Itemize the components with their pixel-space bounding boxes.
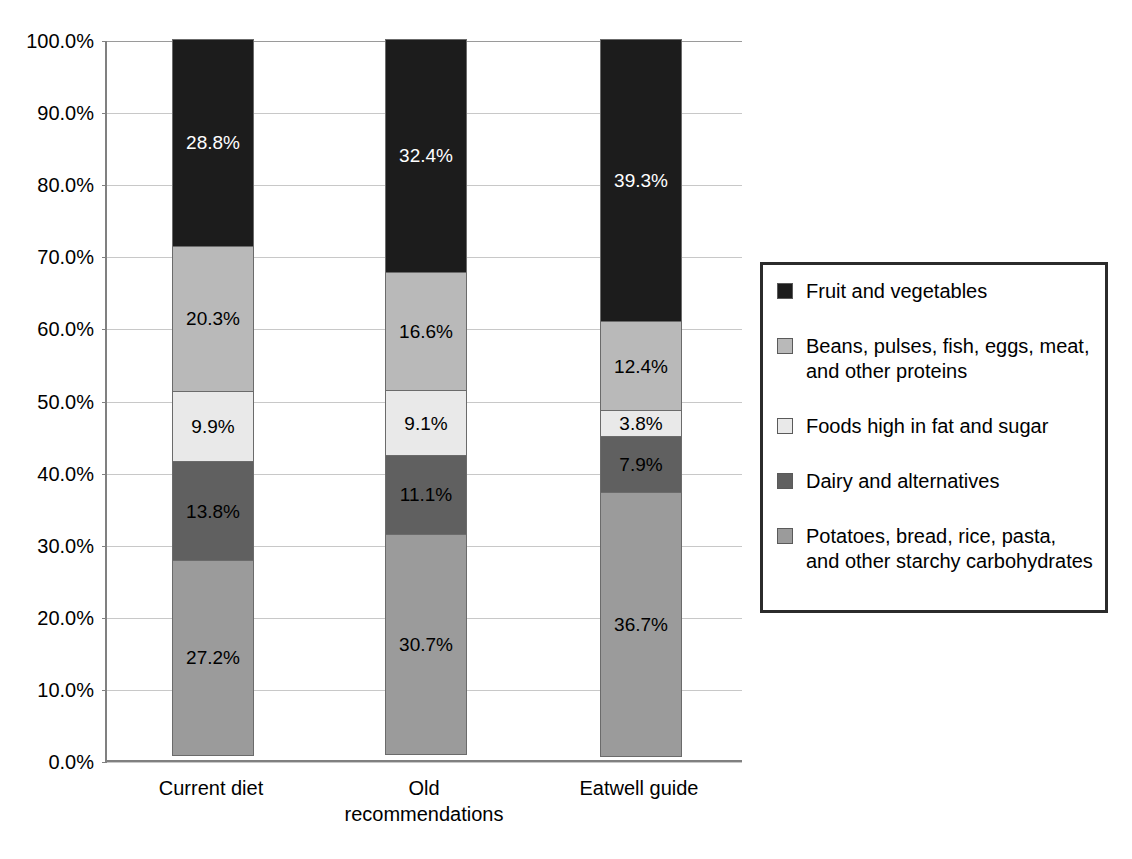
y-axis-tick [102,113,107,114]
bar-segment-value-label: 3.8% [619,414,662,433]
x-axis-category-label: Current diet [101,775,321,801]
legend-item-label: Foods high in fat and sugar [806,414,1048,439]
bar-segment[interactable]: 20.3% [172,246,254,392]
bar-segment[interactable]: 30.7% [385,534,467,755]
bar-segment-value-label: 12.4% [614,357,668,376]
legend-item[interactable]: Fruit and vegetables [777,279,1093,304]
y-axis-tick [102,329,107,330]
bar-old-recommendations[interactable]: 32.4%16.6%9.1%11.1%30.7% [385,39,467,760]
bar-segment-value-label: 39.3% [614,171,668,190]
y-axis-tick-label: 10.0% [4,680,94,700]
plot-area: 28.8%20.3%9.9%13.8%27.2%32.4%16.6%9.1%11… [105,41,742,762]
legend: Fruit and vegetablesBeans, pulses, fish,… [760,262,1108,613]
y-axis-tick [102,185,107,186]
bar-segment-value-label: 27.2% [186,648,240,667]
legend-item-label: Potatoes, bread, rice, pasta, and other … [806,524,1093,574]
legend-color-swatch [777,338,793,354]
legend-item[interactable]: Foods high in fat and sugar [777,414,1093,439]
stacked-bar-chart: 0.0%10.0%20.0%30.0%40.0%50.0%60.0%70.0%8… [0,0,1132,859]
x-axis-category-label: Eatwell guide [529,775,749,801]
bar-segment-value-label: 30.7% [399,635,453,654]
bar-segment[interactable]: 36.7% [600,492,682,757]
bar-segment[interactable]: 27.2% [172,560,254,756]
y-axis-tick-label: 80.0% [4,175,94,195]
bar-segment[interactable]: 16.6% [385,272,467,392]
bar-segment[interactable]: 32.4% [385,39,467,273]
bar-segment[interactable]: 11.1% [385,455,467,535]
y-axis-tick [102,402,107,403]
bar-segment-value-label: 11.1% [400,485,452,504]
y-axis-tick [102,546,107,547]
bar-segment[interactable]: 12.4% [600,321,682,410]
legend-color-swatch [777,528,793,544]
x-axis-category-label-line: Old [314,775,534,801]
x-axis-category-label-line: Eatwell guide [529,775,749,801]
legend-item-label: Fruit and vegetables [806,279,987,304]
bar-current-diet[interactable]: 28.8%20.3%9.9%13.8%27.2% [172,39,254,760]
legend-item[interactable]: Beans, pulses, fish, eggs, meat, and oth… [777,334,1093,384]
y-axis-tick-label: 100.0% [4,31,94,51]
bar-segment-value-label: 32.4% [399,146,453,165]
bar-segment-value-label: 13.8% [186,502,240,521]
legend-item[interactable]: Dairy and alternatives [777,469,1093,494]
bar-segment-value-label: 20.3% [186,309,240,328]
legend-color-swatch [777,418,793,434]
legend-color-swatch [777,473,793,489]
bar-segment[interactable]: 39.3% [600,39,682,322]
y-axis-tick [102,474,107,475]
y-axis-tick [102,690,107,691]
x-axis-category-label-line: recommendations [314,801,534,827]
bar-segment-value-label: 9.9% [191,417,234,436]
y-axis-tick-label: 90.0% [4,103,94,123]
bar-segment[interactable]: 9.1% [385,390,467,456]
y-axis-tick-label: 0.0% [4,752,94,772]
bar-segment-value-label: 9.1% [404,414,447,433]
legend-item-label: Beans, pulses, fish, eggs, meat, and oth… [806,334,1093,384]
y-axis-tick [102,762,107,763]
y-axis-tick [102,257,107,258]
gridline [107,762,742,763]
y-axis-tick-label: 50.0% [4,392,94,412]
bar-segment[interactable]: 13.8% [172,461,254,560]
bar-segment-value-label: 7.9% [619,455,662,474]
y-axis-tick-label: 20.0% [4,608,94,628]
y-axis-tick [102,41,107,42]
legend-items: Fruit and vegetablesBeans, pulses, fish,… [777,279,1093,574]
bar-segment-value-label: 16.6% [399,322,453,341]
y-axis-tick-label: 60.0% [4,319,94,339]
y-axis-tick-label: 40.0% [4,464,94,484]
legend-color-swatch [777,283,793,299]
legend-item-label: Dairy and alternatives [806,469,999,494]
bar-segment-value-label: 28.8% [186,133,240,152]
x-axis-category-label: Oldrecommendations [314,775,534,827]
x-axis-category-label-line: Current diet [101,775,321,801]
bar-segment[interactable]: 9.9% [172,391,254,462]
y-axis-tick [102,618,107,619]
y-axis-tick-label: 30.0% [4,536,94,556]
bar-eatwell-guide[interactable]: 39.3%12.4%3.8%7.9%36.7% [600,39,682,760]
bar-segment[interactable]: 3.8% [600,410,682,437]
bar-segment[interactable]: 7.9% [600,436,682,493]
bar-segment[interactable]: 28.8% [172,39,254,247]
bar-segment-value-label: 36.7% [614,615,668,634]
y-axis-tick-label: 70.0% [4,247,94,267]
legend-item[interactable]: Potatoes, bread, rice, pasta, and other … [777,524,1093,574]
